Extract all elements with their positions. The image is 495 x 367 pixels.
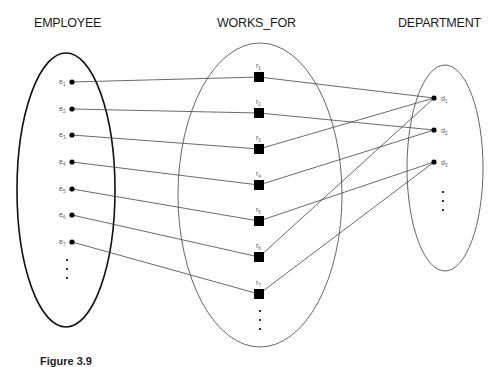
department-instances: d1 d2 d3	[431, 95, 448, 211]
works-for-set-ellipse	[178, 43, 342, 347]
svg-text:r1: r1	[256, 62, 261, 71]
relationship-r3: r3	[254, 134, 264, 154]
department-d1: d1	[431, 95, 448, 104]
department-continuation-dots	[442, 191, 444, 211]
department-d2: d2	[431, 127, 448, 136]
svg-text:e7: e7	[59, 238, 66, 247]
employee-e4: e4	[59, 158, 75, 167]
employee-e5: e5	[59, 185, 75, 194]
employee-relationship-links	[72, 77, 259, 294]
relationship-continuation-dots	[259, 310, 261, 330]
svg-text:r3: r3	[256, 134, 261, 143]
relationship-r6: r6	[254, 242, 264, 262]
employee-instances: e1 e2 e3 e4 e5 e6 e7	[59, 78, 75, 279]
svg-text:e4: e4	[59, 158, 66, 167]
svg-text:r5: r5	[256, 206, 261, 215]
employee-e6: e6	[59, 211, 75, 220]
relationship-instances: r1 r2 r3 r4 r5 r6 r7	[254, 62, 264, 330]
employee-e3: e3	[59, 131, 75, 140]
svg-text:r7: r7	[256, 279, 261, 288]
svg-text:d1: d1	[441, 95, 448, 104]
employee-e1: e1	[59, 78, 75, 87]
relationship-r2: r2	[254, 98, 264, 118]
svg-text:e2: e2	[59, 105, 66, 114]
svg-text:e6: e6	[59, 211, 66, 220]
employee-e7: e7	[59, 238, 75, 247]
svg-text:e1: e1	[59, 78, 66, 87]
relationship-r1: r1	[254, 62, 264, 82]
relationship-r7: r7	[254, 279, 264, 299]
svg-text:d3: d3	[441, 159, 448, 168]
figure-caption: Figure 3.9	[40, 355, 92, 367]
employee-continuation-dots	[66, 259, 68, 279]
svg-text:d2: d2	[441, 127, 448, 136]
svg-text:e3: e3	[59, 131, 66, 140]
svg-text:r2: r2	[256, 98, 261, 107]
svg-text:e5: e5	[59, 185, 66, 194]
relationship-r4: r4	[254, 170, 264, 190]
employee-set-ellipse	[17, 53, 115, 327]
department-d3: d3	[431, 159, 448, 168]
svg-text:r4: r4	[256, 170, 261, 179]
relationship-r5: r5	[254, 206, 264, 226]
svg-text:r6: r6	[256, 242, 261, 251]
employee-e2: e2	[59, 105, 75, 114]
